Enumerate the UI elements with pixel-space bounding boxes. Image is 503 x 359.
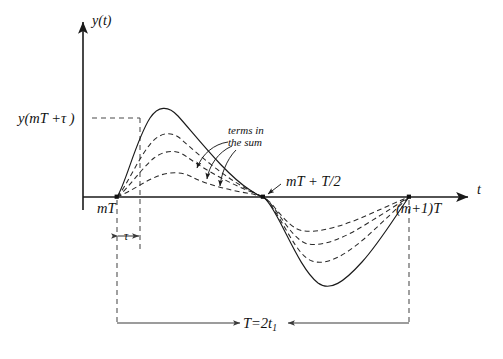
start-label: mT [97,200,116,216]
midpoint-leader-group [268,184,281,194]
junction-dot-end [407,195,411,199]
t-axis-label: t [477,182,482,197]
junction-dot-mid [261,195,265,199]
period-label-main: T=2t [243,315,273,331]
period-label-subscript: 1 [272,323,277,333]
annotation-line-1: terms in [228,124,264,136]
period-label: T=2t1 [243,315,277,333]
y-axis-label: y(t) [90,13,112,29]
y-value-label: y(mT +τ ) [16,110,75,127]
signal-waveform-diagram: y(t) t y(mT +τ ) mT mT + T/2 (m+1)T τ te… [0,0,503,359]
figure-container: y(t) t y(mT +τ ) mT mT + T/2 (m+1)T τ te… [0,0,503,359]
axes-group [83,22,468,210]
half-period-label: mT + T/2 [286,173,341,189]
guide-lines-group [92,118,409,323]
annotation-leaders-group [197,142,236,186]
end-label: (m+1)T [396,200,442,217]
leader-line-3 [220,150,236,186]
junction-dot-start [115,195,119,199]
curve-term-3 [117,173,409,232]
leader-line-midpoint [268,184,281,194]
annotation-line-2: the sum [228,136,262,148]
